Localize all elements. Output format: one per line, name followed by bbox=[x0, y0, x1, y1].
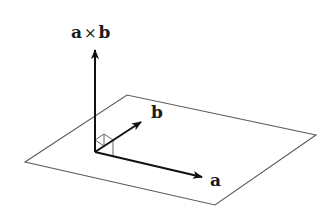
cross-symbol: × bbox=[82, 24, 99, 42]
label-a-cross-b: a×b bbox=[71, 24, 110, 41]
label-vector-a: a bbox=[210, 172, 221, 189]
plane-parallelogram bbox=[25, 95, 316, 205]
cross-product-diagram bbox=[0, 0, 335, 213]
vector-a bbox=[95, 152, 202, 177]
vector-b bbox=[95, 122, 141, 152]
label-cross-left: a bbox=[71, 22, 82, 42]
label-vector-b: b bbox=[151, 104, 163, 121]
label-cross-right: b bbox=[99, 22, 111, 42]
